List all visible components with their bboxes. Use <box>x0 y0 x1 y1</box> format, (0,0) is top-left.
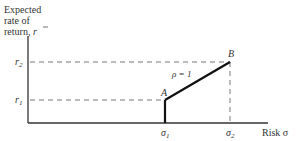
xlabel: Risk σ <box>262 127 289 138</box>
r2-label: r2 <box>15 56 23 69</box>
rho-1-line <box>165 62 230 100</box>
ylabel-line1: Expected <box>4 4 41 15</box>
point-b-label: B <box>228 48 234 59</box>
r1-label: r1 <box>15 94 22 107</box>
rho-annotation: ρ = 1 <box>171 69 191 79</box>
sigma2-label: σ2 <box>226 127 235 140</box>
sigma1-label: σ1 <box>161 127 169 140</box>
ylabel-line3: return, r <box>4 26 37 37</box>
point-a-label: A <box>160 87 168 98</box>
chart: Expected rate of return, r r2 r1 σ1 σ2 R… <box>0 0 300 141</box>
ylabel-line2: rate of <box>4 15 30 26</box>
